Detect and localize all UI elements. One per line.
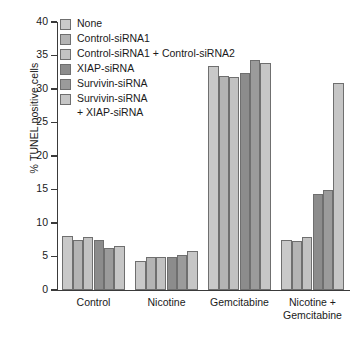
x-axis-group-label: Nicotine + Gemcitabine bbox=[276, 296, 349, 322]
legend-item-label: XIAP-siRNA bbox=[77, 62, 134, 76]
y-axis-tick-label: 40 bbox=[36, 15, 48, 27]
legend-item-label: Survivin-siRNA + XIAP-siRNA bbox=[77, 92, 148, 119]
y-axis-tick-label: 25 bbox=[36, 115, 48, 127]
x-axis-group-label: Control bbox=[57, 296, 130, 309]
legend-item-label: Survivin-siRNA bbox=[77, 77, 148, 91]
y-axis-tick-label: 15 bbox=[36, 182, 48, 194]
y-axis-tick-label: 0 bbox=[42, 283, 48, 295]
bar bbox=[167, 257, 177, 291]
bar bbox=[292, 241, 302, 290]
legend-item: XIAP-siRNA bbox=[57, 62, 272, 76]
chart-legend: NoneControl-siRNA1Control-siRNA1 + Contr… bbox=[57, 17, 272, 121]
bar bbox=[94, 240, 104, 290]
bar-group bbox=[276, 22, 349, 290]
legend-item: Control-siRNA1 + Control-siRNA2 bbox=[57, 47, 272, 61]
legend-item: Survivin-siRNA + XIAP-siRNA bbox=[57, 92, 272, 119]
bar bbox=[83, 237, 93, 290]
y-axis-tick-label: 20 bbox=[36, 149, 48, 161]
bar bbox=[313, 194, 323, 290]
legend-item: None bbox=[57, 17, 272, 31]
bar bbox=[187, 251, 197, 290]
legend-swatch-icon bbox=[60, 19, 71, 30]
bar bbox=[177, 255, 187, 290]
y-axis-tick-label: 30 bbox=[36, 82, 48, 94]
bar bbox=[135, 261, 145, 290]
legend-swatch-icon bbox=[60, 34, 71, 45]
y-axis-tick-label: 5 bbox=[42, 249, 48, 261]
bar bbox=[73, 240, 83, 290]
bar bbox=[302, 237, 312, 290]
bar bbox=[146, 257, 156, 291]
bar bbox=[114, 246, 124, 290]
legend-swatch-icon bbox=[60, 94, 71, 105]
x-axis-group-label: Nicotine bbox=[130, 296, 203, 309]
legend-item: Survivin-siRNA bbox=[57, 77, 272, 91]
legend-swatch-icon bbox=[60, 64, 71, 75]
y-axis-tick-label: 35 bbox=[36, 48, 48, 60]
legend-swatch-icon bbox=[60, 49, 71, 60]
legend-item-label: Control-siRNA1 bbox=[77, 32, 150, 46]
tunel-assay-bar-chart: % TUNEL positive cells 0510152025303540 … bbox=[0, 0, 359, 342]
bar bbox=[281, 240, 291, 290]
x-axis-group-label: Gemcitabine bbox=[203, 296, 276, 309]
bar bbox=[323, 190, 333, 290]
legend-item: Control-siRNA1 bbox=[57, 32, 272, 46]
legend-item-label: None bbox=[77, 17, 102, 31]
bar bbox=[333, 83, 343, 290]
bar bbox=[104, 248, 114, 290]
bar bbox=[62, 236, 72, 290]
y-axis-tick-label: 10 bbox=[36, 216, 48, 228]
legend-item-label: Control-siRNA1 + Control-siRNA2 bbox=[77, 47, 235, 61]
x-axis-line bbox=[57, 290, 350, 291]
bar bbox=[156, 257, 166, 290]
legend-swatch-icon bbox=[60, 79, 71, 90]
